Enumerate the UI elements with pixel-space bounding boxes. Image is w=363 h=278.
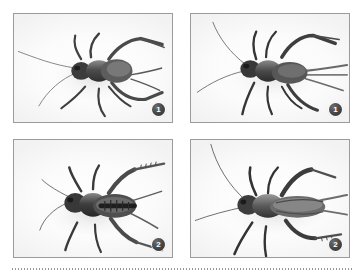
cricket-specimen-illustration [14, 14, 172, 122]
panel-number-badge: 1 [152, 103, 165, 116]
panel-number-badge: 2 [152, 238, 165, 251]
photo-image-top-left: 1 [14, 14, 172, 122]
photo-panel-top-left[interactable]: 1 [13, 13, 173, 123]
photo-panel-bottom-right[interactable]: 2 [190, 139, 350, 258]
photo-plate-grid: 1 [13, 13, 350, 258]
panel-number-badge: 1 [329, 103, 342, 116]
cricket-specimen-illustration [14, 140, 172, 257]
panel-number-badge: 2 [329, 238, 342, 251]
photo-image-bottom-right: 2 [191, 140, 349, 257]
cricket-specimen-illustration [191, 14, 349, 122]
photo-image-bottom-left: 2 [14, 140, 172, 257]
photo-panel-top-right[interactable]: 1 [190, 13, 350, 123]
photo-image-top-right: 1 [191, 14, 349, 122]
cricket-specimen-illustration [191, 140, 349, 257]
dotted-separator-rule [12, 268, 353, 270]
photo-panel-bottom-left[interactable]: 2 [13, 139, 173, 258]
